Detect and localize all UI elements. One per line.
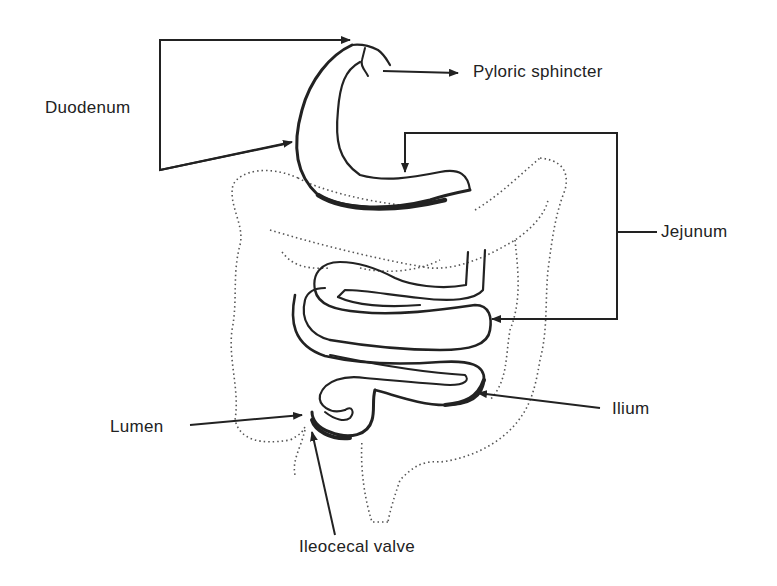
label-duodenum: Duodenum [45, 98, 131, 118]
label-ileocecal-valve: Ileocecal valve [299, 537, 415, 557]
intestine-diagram [0, 0, 777, 586]
label-lumen: Lumen [110, 417, 163, 437]
label-pyloric-sphincter: Pyloric sphincter [473, 62, 603, 82]
label-ilium: Ilium [612, 399, 649, 419]
duodenum-shape [297, 45, 470, 209]
colon-outline [231, 158, 566, 522]
leader-lines [160, 40, 657, 535]
label-jejunum: Jejunum [661, 222, 727, 242]
small-intestine-coils [293, 250, 491, 438]
